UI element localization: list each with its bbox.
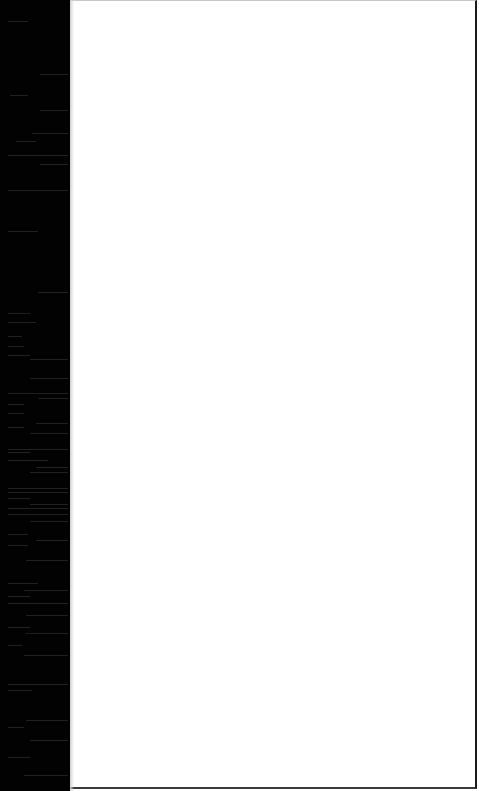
panel-edge-shadow — [70, 0, 74, 791]
streak-line — [8, 21, 28, 22]
streak-line — [30, 472, 68, 473]
streak-line — [36, 467, 68, 468]
streak-line — [8, 645, 22, 646]
streak-line — [8, 603, 68, 604]
streak-line — [30, 521, 68, 522]
streak-line — [24, 775, 68, 776]
streak-line — [8, 534, 28, 535]
streak-line — [36, 540, 68, 541]
streak-line — [8, 322, 36, 323]
streak-line — [26, 720, 68, 721]
streak-line — [30, 740, 68, 741]
streak-line — [8, 355, 30, 356]
streak-line — [8, 155, 68, 156]
main-blank-panel — [70, 0, 477, 789]
streak-line — [8, 231, 38, 232]
streak-line — [8, 427, 24, 428]
streak-line — [8, 545, 28, 546]
streak-line — [8, 498, 30, 499]
streak-line — [8, 190, 68, 191]
streak-line — [30, 433, 68, 434]
streak-line — [8, 452, 30, 453]
streak-line — [38, 398, 68, 399]
streak-line — [10, 95, 28, 96]
streak-line — [40, 74, 68, 75]
streak-line — [8, 684, 68, 685]
streak-line — [8, 514, 68, 515]
streak-line — [8, 690, 32, 691]
streak-line — [36, 423, 68, 424]
streak-line — [8, 413, 24, 414]
streak-line — [8, 492, 68, 493]
streak-line — [8, 336, 22, 337]
streak-line — [30, 378, 68, 379]
streak-line — [16, 141, 36, 142]
streak-line — [40, 164, 68, 165]
streak-line — [8, 583, 38, 584]
streak-line — [38, 292, 68, 293]
streak-line — [24, 590, 68, 591]
streak-line — [40, 110, 68, 111]
left-dark-panel — [0, 0, 70, 791]
streak-line — [8, 460, 48, 461]
streak-line — [8, 404, 24, 405]
streak-line — [8, 488, 68, 489]
streak-line — [26, 560, 68, 561]
streak-line — [8, 449, 68, 450]
streak-line — [32, 133, 68, 134]
streak-line — [26, 615, 68, 616]
streak-line — [8, 393, 68, 394]
streak-line — [30, 504, 68, 505]
streak-line — [8, 627, 30, 628]
streak-line — [8, 757, 30, 758]
streak-line — [8, 313, 30, 314]
streak-line — [8, 346, 24, 347]
streak-line — [8, 596, 30, 597]
streak-line — [26, 633, 68, 634]
streak-line — [30, 359, 68, 360]
streak-line — [24, 655, 68, 656]
streak-line — [8, 727, 24, 728]
streak-line — [8, 508, 68, 509]
